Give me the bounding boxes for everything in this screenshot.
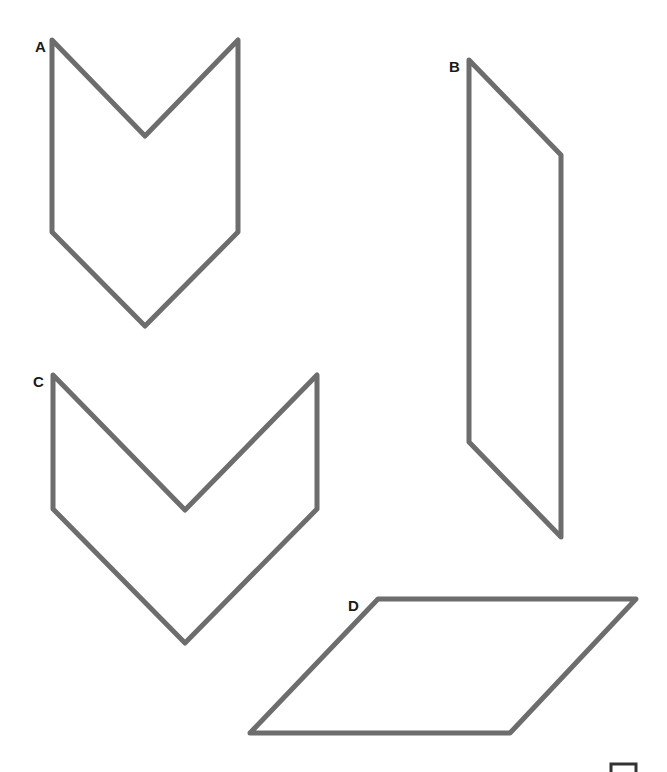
- shape-b-label: B: [449, 58, 460, 75]
- shape-d-parallelogram: [250, 599, 636, 733]
- shape-a-group: A: [35, 38, 238, 326]
- shapes-figure: A B C D: [0, 0, 667, 772]
- shape-b-parallelogram: [469, 60, 561, 537]
- shape-d-label: D: [348, 597, 359, 614]
- shape-c-label: C: [33, 373, 44, 390]
- shape-c-group: C: [33, 373, 317, 643]
- corner-bracket-icon: [611, 764, 636, 772]
- shape-a-chevron: [52, 40, 238, 326]
- shape-c-chevron: [53, 375, 317, 643]
- shape-b-group: B: [449, 58, 561, 537]
- shape-a-label: A: [35, 38, 46, 55]
- shape-d-group: D: [250, 597, 636, 733]
